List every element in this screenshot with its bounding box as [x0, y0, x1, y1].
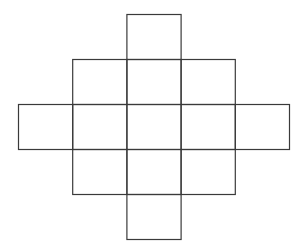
grid-square-r3-c3 [181, 150, 235, 195]
grid-square-r0-c2 [127, 15, 181, 60]
grid-square-r3-c2 [127, 150, 181, 195]
grid-square-r2-c1 [73, 105, 127, 150]
grid-square-r2-c2 [127, 105, 181, 150]
grid-square-r1-c2 [127, 60, 181, 105]
grid-square-r2-c3 [181, 105, 235, 150]
grid-square-r1-c1 [73, 60, 127, 105]
grid-square-r1-c3 [181, 60, 235, 105]
grid-square-r4-c2 [127, 195, 181, 240]
grid-square-r3-c1 [73, 150, 127, 195]
grid-square-r2-c4 [235, 105, 289, 150]
square-grid-diagram [0, 0, 308, 252]
grid-square-r2-c0 [19, 105, 73, 150]
